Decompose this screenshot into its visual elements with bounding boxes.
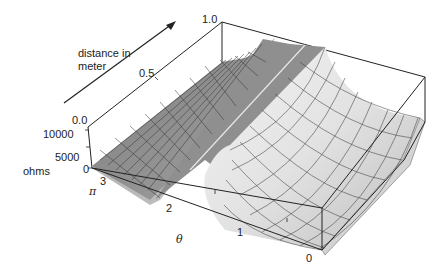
ohms-tick-2: 10000	[43, 129, 74, 140]
ohms-axis-label: ohms	[23, 166, 50, 177]
theta-tick-0: 0	[306, 253, 312, 264]
theta-tick-1: 1	[237, 227, 243, 238]
theta-tick-2: 2	[166, 203, 172, 214]
theta-axis-label: θ	[176, 234, 183, 245]
distance-tick-0: 0.0	[72, 115, 87, 126]
theta-tick-3: 3	[100, 176, 106, 187]
distance-tick-1: 0.5	[139, 68, 154, 79]
distance-tick-2: 1.0	[202, 14, 217, 25]
theta-tick-pi: π	[89, 186, 96, 197]
ohms-tick-1: 5000	[55, 152, 79, 163]
ohms-tick-0: 0	[83, 164, 89, 175]
distance-axis-label-line1: distance in	[78, 48, 131, 59]
distance-axis-label-line2: meter	[78, 61, 106, 72]
